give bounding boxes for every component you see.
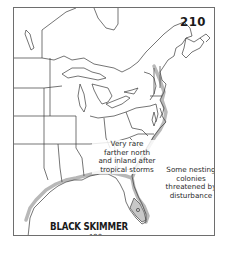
map-frame: 210 Very rare farther north and inland a… [13, 7, 215, 236]
note-line: disturbance [161, 192, 215, 201]
florida-shading [130, 198, 146, 222]
page-reference: p. 190 [80, 233, 102, 236]
colonies-threat-note: Some nesting colonies threatened by dist… [161, 166, 215, 200]
inland-occurrence-note: Very rare farther north and inland after… [92, 140, 162, 174]
range-map [14, 8, 215, 236]
borders [14, 8, 210, 236]
species-title: BLACK SKIMMER [50, 221, 128, 232]
note-line: tropical storms [92, 166, 162, 175]
plate-number: 210 [180, 14, 206, 29]
